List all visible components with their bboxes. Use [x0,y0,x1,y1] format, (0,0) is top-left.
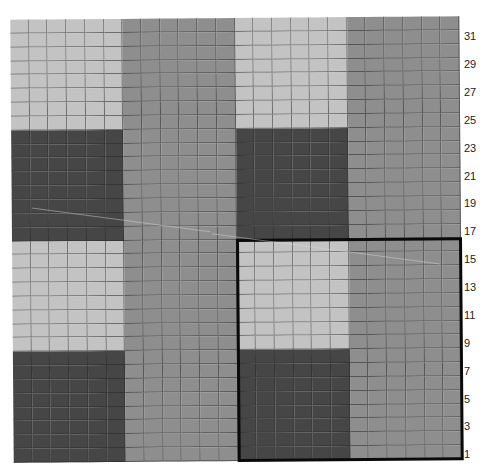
grid-cell [123,129,142,143]
row-label: 19 [464,197,482,209]
grid-cell [422,72,441,86]
grid-cell [68,199,87,213]
grid-cell [254,32,273,46]
grid-cell [106,310,125,324]
grid-cell [235,59,254,73]
grid-cell [162,295,181,309]
grid-cell [161,212,180,226]
grid-cell [272,18,291,32]
grid-cell [48,33,67,47]
grid-cell [199,281,218,295]
grid-cell [198,129,217,143]
grid-cell [218,253,237,267]
grid-cell [143,282,162,296]
grid-cell [161,185,180,199]
grid-cell [385,141,404,155]
grid-cell [217,184,236,198]
grid-cell [292,211,311,225]
grid-cell [68,255,87,269]
grid-cell [126,434,145,448]
grid-cell [87,227,106,241]
grid-cell [49,185,68,199]
grid-cell [30,158,49,172]
grid-cell [141,19,160,33]
grid-cell [68,227,87,241]
grid-cell [32,393,51,407]
grid-cell [292,128,311,142]
grid-cell [403,17,422,31]
grid-cell [104,47,123,61]
grid-cell [69,324,88,338]
grid-cell [216,46,235,60]
grid-cell [218,323,237,337]
grid-cell [13,366,32,380]
grid-cell [125,323,144,337]
grid-cell [161,115,180,129]
grid-cell [125,309,144,323]
grid-cell [367,141,386,155]
grid-cell [67,130,86,144]
grid-cell [310,86,329,100]
grid-cell [49,130,68,144]
grid-cell [143,254,162,268]
grid-cell [179,115,198,129]
grid-cell [218,226,237,240]
grid-cell [386,197,405,211]
grid-cell [366,31,385,45]
grid-cell [219,336,238,350]
grid-cell [180,254,199,268]
highlighted-region-box [235,237,463,462]
grid-cell [254,142,273,156]
grid-cell [310,17,329,31]
grid-cell [105,116,124,130]
grid-cell [199,267,218,281]
grid-cell [442,141,461,155]
grid-cell [31,296,50,310]
grid-cell [160,88,179,102]
grid-cell [124,268,143,282]
grid-cell [273,87,292,101]
grid-cell [199,198,218,212]
grid-cell [13,352,32,366]
grid-cell [180,143,199,157]
row-label: 1 [464,448,482,460]
grid-cell [217,129,236,143]
grid-cell [51,435,70,449]
grid-cell [69,351,88,365]
grid-cell [124,185,143,199]
grid-cell [67,88,86,102]
grid-cell [51,407,70,421]
grid-cell [107,407,126,421]
grid-cell [385,100,404,114]
grid-cell [88,379,107,393]
grid-cell [442,182,461,196]
grid-cell [441,113,460,127]
grid-cell [29,19,48,33]
grid-cell [50,338,69,352]
grid-cell [200,323,219,337]
grid-cell [441,127,460,141]
grid-cell [87,282,106,296]
grid-cell [310,59,329,73]
grid-cell [404,100,423,114]
grid-cell [385,114,404,128]
grid-cell [235,87,254,101]
grid-cell [162,240,181,254]
grid-cell [106,254,125,268]
grid-cell [347,72,366,86]
grid-cell [218,240,237,254]
grid-cell [31,324,50,338]
row-label: 25 [464,114,482,126]
grid-cell [181,323,200,337]
grid-cell [106,240,125,254]
grid-cell [181,364,200,378]
grid-cell [30,116,49,130]
grid-cell [10,33,29,47]
grid-cell [422,16,441,30]
grid-cell [219,378,238,392]
grid-cell [104,102,123,116]
grid-cell [12,269,31,283]
grid-cell [163,448,182,462]
grid-cell [366,72,385,86]
grid-cell [347,31,366,45]
